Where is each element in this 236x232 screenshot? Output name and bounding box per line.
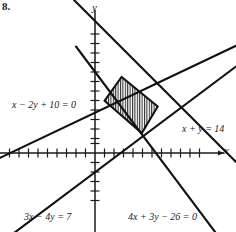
- equation-label-line-2: x + y = 14: [182, 124, 224, 134]
- problem-number: 8.: [2, 1, 10, 12]
- x-axis-ticks: [10, 149, 200, 158]
- equation-label-line-1: x − 2y + 10 = 0: [12, 100, 76, 110]
- equation-label-line-3: 3x − 4y = 7: [24, 212, 71, 222]
- coordinate-plot: [0, 0, 236, 232]
- y-axis-label: y: [92, 2, 97, 13]
- figure-container: 8. y x x − 2y + 10 = 0 x + y = 14 3x − 4…: [0, 0, 236, 232]
- equation-label-line-4: 4x + 3y − 26 = 0: [128, 212, 197, 222]
- x-axis-label: x: [224, 145, 229, 156]
